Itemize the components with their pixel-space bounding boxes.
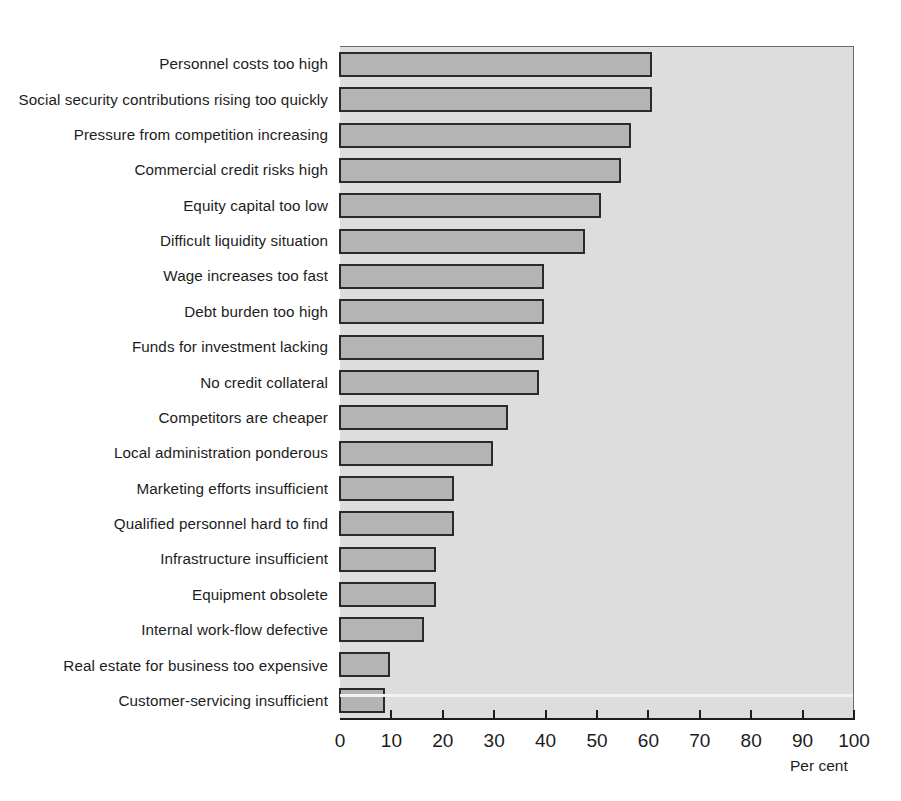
bar-row	[340, 612, 853, 647]
x-axis-tick-label: 0	[335, 730, 346, 752]
category-label: Difficult liquidity situation	[0, 223, 336, 258]
bar	[339, 264, 544, 289]
x-axis-tick	[596, 710, 598, 720]
plot-bottom-strip	[340, 694, 853, 697]
bar-row	[340, 153, 853, 188]
x-axis-tick	[802, 710, 804, 720]
bar-row	[340, 541, 853, 576]
category-label: Real estate for business too expensive	[0, 647, 336, 682]
bar-row	[340, 118, 853, 153]
x-axis-tick	[545, 710, 547, 720]
bar	[339, 617, 424, 642]
category-label: No credit collateral	[0, 364, 336, 399]
category-label: Personnel costs too high	[0, 46, 336, 81]
bar	[339, 52, 652, 77]
bar-series	[340, 47, 853, 718]
bar-row	[340, 47, 853, 82]
bar	[339, 370, 539, 395]
category-label: Infrastructure insufficient	[0, 541, 336, 576]
bar	[339, 688, 385, 713]
x-axis-tick	[442, 710, 444, 720]
category-label: Commercial credit risks high	[0, 152, 336, 187]
bar	[339, 87, 652, 112]
bar	[339, 158, 621, 183]
bar	[339, 335, 544, 360]
x-axis-tick-label: 10	[381, 730, 402, 752]
category-label: Local administration ponderous	[0, 435, 336, 470]
x-axis-tick-label: 30	[484, 730, 505, 752]
x-axis-tick-label: 20	[432, 730, 453, 752]
category-label: Funds for investment lacking	[0, 329, 336, 364]
x-axis-tick-label: 100	[838, 730, 870, 752]
bar-row	[340, 188, 853, 223]
category-label: Debt burden too high	[0, 294, 336, 329]
bar-row	[340, 82, 853, 117]
x-axis-title: Per cent	[790, 757, 848, 775]
bar	[339, 652, 390, 677]
bar	[339, 229, 585, 254]
bar	[339, 299, 544, 324]
bar-row	[340, 400, 853, 435]
bar-row	[340, 365, 853, 400]
category-label: Equity capital too low	[0, 188, 336, 223]
bar-row	[340, 506, 853, 541]
category-label: Pressure from competition increasing	[0, 117, 336, 152]
x-axis-tick-label: 60	[638, 730, 659, 752]
bar-row	[340, 577, 853, 612]
category-label: Social security contributions rising too…	[0, 81, 336, 116]
x-axis-tick	[853, 710, 855, 720]
category-label-column: Personnel costs too highSocial security …	[0, 46, 336, 718]
bar	[339, 476, 454, 501]
bar-row	[340, 647, 853, 682]
bar	[339, 441, 493, 466]
x-axis-tick	[699, 710, 701, 720]
x-axis-tick	[647, 710, 649, 720]
bar	[339, 511, 454, 536]
x-axis-tick	[493, 710, 495, 720]
x-axis-tick-label: 70	[689, 730, 710, 752]
x-axis-tick	[750, 710, 752, 720]
bar-row	[340, 471, 853, 506]
bar	[339, 582, 436, 607]
bar-row	[340, 259, 853, 294]
category-label: Internal work-flow defective	[0, 612, 336, 647]
category-label: Wage increases too fast	[0, 258, 336, 293]
category-label: Competitors are cheaper	[0, 400, 336, 435]
x-axis: 0102030405060708090100	[340, 718, 854, 728]
bar	[339, 405, 508, 430]
plot-area	[340, 46, 854, 718]
x-axis-tick-label: 90	[792, 730, 813, 752]
bar	[339, 547, 436, 572]
x-axis-tick	[390, 710, 392, 720]
x-axis-tick-label: 80	[741, 730, 762, 752]
category-label: Qualified personnel hard to find	[0, 506, 336, 541]
bar-row	[340, 224, 853, 259]
bar-row	[340, 294, 853, 329]
bar-row	[340, 330, 853, 365]
bar-row	[340, 435, 853, 470]
category-label: Equipment obsolete	[0, 577, 336, 612]
bar-chart-figure: Personnel costs too highSocial security …	[0, 0, 901, 801]
category-label: Customer-servicing insufficient	[0, 683, 336, 718]
x-axis-tick-label: 50	[586, 730, 607, 752]
category-label: Marketing efforts insufficient	[0, 471, 336, 506]
bar	[339, 193, 601, 218]
bar	[339, 123, 631, 148]
x-axis-tick-label: 40	[535, 730, 556, 752]
